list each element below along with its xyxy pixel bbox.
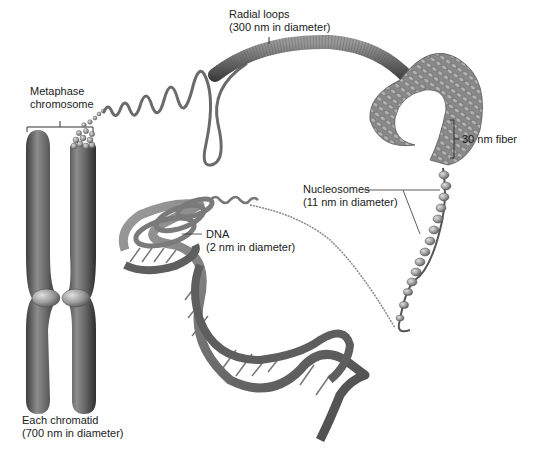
label-each-chromatid: Each chromatid (700 nm in diameter) xyxy=(22,414,124,440)
label-nucleosomes-line2: (11 nm in diameter) xyxy=(303,196,398,209)
label-nucleosomes-line1: Nucleosomes xyxy=(303,183,398,196)
label-chromatid-line2: (700 nm in diameter) xyxy=(22,427,124,440)
label-metaphase-chromosome: Metaphase chromosome xyxy=(30,85,94,111)
label-chromatid-line1: Each chromatid xyxy=(22,414,124,427)
label-30nm-fiber: 30 nm fiber xyxy=(462,133,517,146)
label-nucleosomes: Nucleosomes (11 nm in diameter) xyxy=(303,183,398,209)
label-dna: DNA (2 nm in diameter) xyxy=(206,228,295,254)
chromosome xyxy=(26,109,105,414)
label-radial-line1: Radial loops xyxy=(229,8,331,21)
label-dna-line2: (2 nm in diameter) xyxy=(206,241,295,254)
label-dna-line1: DNA xyxy=(206,228,295,241)
dna-strand xyxy=(250,205,395,328)
coiled-radial-loops xyxy=(104,64,246,165)
30nm-fiber xyxy=(370,53,483,165)
label-radial-loops: Radial loops (300 nm in diameter) xyxy=(229,8,331,34)
radial-loops-fiber xyxy=(215,42,410,80)
label-30nm-line1: 30 nm fiber xyxy=(462,133,517,146)
label-radial-line2: (300 nm in diameter) xyxy=(229,21,331,34)
label-metaphase-line2: chromosome xyxy=(30,98,94,111)
label-metaphase-line1: Metaphase xyxy=(30,85,94,98)
